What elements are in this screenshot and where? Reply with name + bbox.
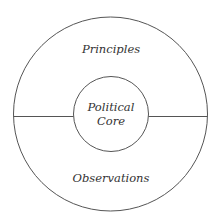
principles-label: Principles bbox=[81, 42, 140, 56]
political-label: Political bbox=[87, 100, 135, 114]
observations-label: Observations bbox=[73, 171, 150, 185]
core-label: Core bbox=[97, 114, 125, 128]
diagram-canvas: Principles Political Core Observations bbox=[0, 0, 216, 223]
